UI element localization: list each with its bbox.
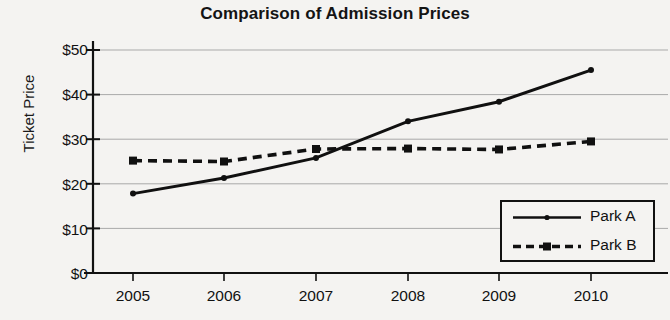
data-series-layer — [129, 67, 595, 197]
legend-sample-dashed-line — [511, 232, 583, 261]
legend-item-park-a: Park A — [502, 203, 653, 232]
data-point-park-a-2005 — [130, 191, 136, 197]
data-point-park-b-2010 — [587, 137, 595, 145]
data-point-park-b-2008 — [404, 145, 412, 153]
data-point-park-b-2006 — [220, 158, 228, 166]
legend-label-park-b: Park B — [590, 236, 637, 254]
legend: Park A Park B — [500, 200, 655, 262]
series-park-a — [130, 67, 594, 197]
data-point-park-b-2005 — [129, 157, 137, 165]
data-point-park-a-2008 — [405, 118, 411, 124]
legend-label-park-a: Park A — [590, 207, 636, 225]
series-line-park-b — [133, 141, 591, 161]
data-point-park-a-2009 — [496, 99, 502, 105]
legend-sample-solid-line — [511, 203, 583, 232]
data-point-park-b-2007 — [312, 145, 320, 153]
legend-item-park-b: Park B — [502, 232, 653, 261]
data-point-park-b-2009 — [495, 145, 503, 153]
plot-area — [0, 0, 670, 320]
data-point-park-a-2007 — [313, 155, 319, 161]
series-line-park-a — [133, 70, 591, 194]
series-park-b — [129, 137, 595, 165]
data-point-park-a-2006 — [221, 175, 227, 181]
data-point-park-a-2010 — [588, 67, 594, 73]
chart-figure: Comparison of Admission Prices Ticket Pr… — [0, 0, 670, 320]
